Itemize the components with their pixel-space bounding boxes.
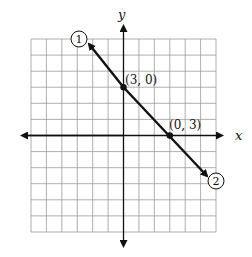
axes — [22, 26, 222, 246]
point-marker-b — [167, 132, 173, 138]
graph-line — [89, 44, 207, 176]
point-label-a: (3, 0) — [125, 73, 157, 87]
callout-2: 2 — [208, 173, 224, 189]
x-axis-label: x — [235, 128, 243, 143]
point-label-b: (0, 3) — [169, 118, 201, 132]
callout-1: 1 — [71, 31, 87, 47]
coordinate-plot: x y (3, 0) (0, 3) 1 2 — [0, 0, 252, 257]
callout-2-label: 2 — [213, 175, 220, 188]
callout-1-label: 1 — [76, 33, 83, 46]
y-axis-label: y — [117, 7, 126, 22]
